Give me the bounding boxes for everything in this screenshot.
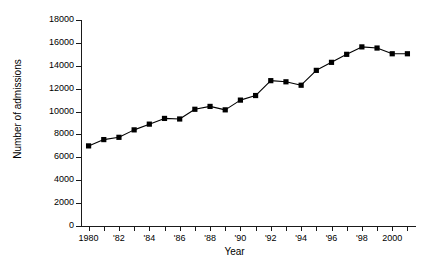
- data-point-marker: [192, 107, 197, 112]
- x-tick-mark: [301, 226, 302, 231]
- x-tick-label: '96: [326, 233, 338, 243]
- y-tick-label-row: 8000: [0, 134, 81, 135]
- data-point-marker: [374, 45, 379, 50]
- y-tick-label-row: 6000: [0, 157, 81, 158]
- data-point-marker: [283, 79, 288, 84]
- x-axis-line: [81, 226, 416, 227]
- x-tick-mark: [316, 226, 317, 231]
- x-tick-mark: [180, 226, 181, 231]
- y-tick-label: 12000: [26, 84, 74, 93]
- x-tick-mark: [347, 226, 348, 231]
- y-tick-label: 16000: [26, 38, 74, 47]
- x-tick-label: '94: [295, 233, 307, 243]
- data-point-marker: [223, 107, 228, 112]
- data-point-marker: [344, 52, 349, 57]
- x-tick-mark: [332, 226, 333, 231]
- x-tick-label: 1980: [79, 233, 99, 243]
- x-tick-label: '88: [204, 233, 216, 243]
- y-tick-label-row: 10000: [0, 112, 81, 113]
- y-tick-label-row: 14000: [0, 66, 81, 67]
- data-point-marker: [253, 93, 258, 98]
- x-tick-mark: [195, 226, 196, 231]
- data-point-marker: [86, 143, 91, 148]
- x-tick-label: '86: [174, 233, 186, 243]
- x-tick-mark: [210, 226, 211, 231]
- chart-figure: Number of admissions 0200040006000800010…: [0, 0, 441, 268]
- x-tick-mark: [119, 226, 120, 231]
- data-point-marker: [299, 83, 304, 88]
- x-tick-label: '92: [265, 233, 277, 243]
- y-tick-label-row: 4000: [0, 180, 81, 181]
- data-point-marker: [116, 135, 121, 140]
- data-point-marker: [101, 137, 106, 142]
- y-tick-label-row: 18000: [0, 20, 81, 21]
- data-point-marker: [162, 116, 167, 121]
- data-point-marker: [147, 122, 152, 127]
- data-point-marker: [238, 98, 243, 103]
- x-tick-mark: [271, 226, 272, 231]
- y-tick-label-row: 2000: [0, 203, 81, 204]
- data-point-marker: [132, 127, 137, 132]
- y-tick-label: 18000: [26, 15, 74, 24]
- x-tick-mark: [104, 226, 105, 231]
- y-tick-label-row: 16000: [0, 43, 81, 44]
- x-axis-label: Year: [224, 246, 244, 257]
- x-tick-label: '90: [235, 233, 247, 243]
- x-tick-mark: [377, 226, 378, 231]
- x-tick-mark: [149, 226, 150, 231]
- x-tick-label: 2000: [382, 233, 402, 243]
- x-tick-mark: [134, 226, 135, 231]
- y-tick-label-row: 12000: [0, 89, 81, 90]
- x-tick-mark: [407, 226, 408, 231]
- x-tick-label: '84: [143, 233, 155, 243]
- data-point-marker: [177, 116, 182, 121]
- y-tick-label: 6000: [26, 152, 74, 161]
- x-tick-label: '98: [356, 233, 368, 243]
- x-tick-mark: [225, 226, 226, 231]
- data-point-marker: [359, 44, 364, 49]
- x-tick-mark: [256, 226, 257, 231]
- x-tick-mark: [392, 226, 393, 231]
- data-point-marker: [268, 78, 273, 83]
- y-tick-label: 10000: [26, 107, 74, 116]
- x-axis-label-container: Year: [0, 247, 441, 257]
- data-point-marker: [329, 60, 334, 65]
- x-tick-label: '82: [113, 233, 125, 243]
- x-tick-mark: [240, 226, 241, 231]
- x-tick-mark: [286, 226, 287, 231]
- data-point-marker: [314, 68, 319, 73]
- y-axis-label: Number of admissions: [13, 44, 23, 174]
- y-tick-label: 8000: [26, 129, 74, 138]
- y-tick-label: 4000: [26, 175, 74, 184]
- data-point-marker: [405, 51, 410, 56]
- y-tick-label: 2000: [26, 198, 74, 207]
- x-tick-mark: [89, 226, 90, 231]
- x-tick-mark: [362, 226, 363, 231]
- series-markers: [86, 44, 410, 148]
- series-line: [89, 47, 408, 146]
- data-point-marker: [207, 104, 212, 109]
- y-tick-label-row: 0: [0, 226, 81, 227]
- y-tick-label: 0: [26, 221, 74, 230]
- x-tick-mark: [165, 226, 166, 231]
- y-tick-label: 14000: [26, 61, 74, 70]
- data-point-marker: [390, 51, 395, 56]
- y-axis-line: [81, 20, 82, 227]
